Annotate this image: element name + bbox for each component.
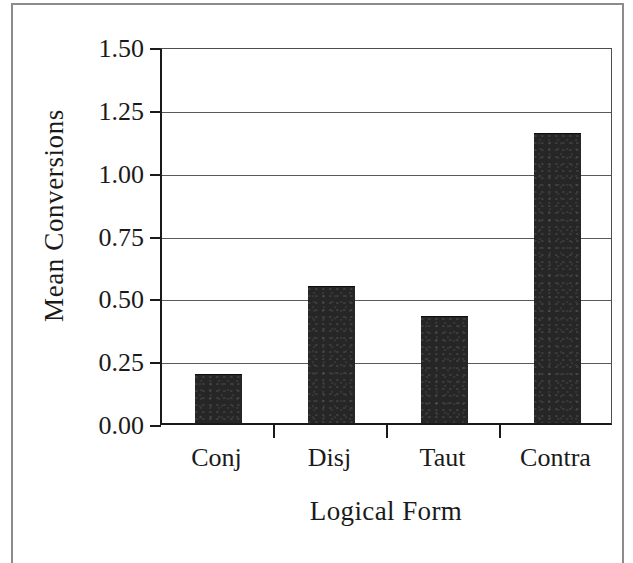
y-axis-tick-label: 0.75 [52,223,144,253]
x-axis-category-label: Conj [160,443,273,473]
plot-area [160,48,612,425]
y-axis-tick-label: 1.25 [52,97,144,127]
y-axis-tick-mark [150,425,161,427]
bar [308,286,355,423]
x-axis-tick-mark [386,425,388,438]
x-axis-title: Logical Form [160,496,612,527]
y-axis-tick-label: 0.25 [52,348,144,378]
y-axis-tick-label: 0.50 [52,285,144,315]
y-axis-tick-label: 0.00 [52,411,144,441]
x-axis-tick-mark [273,425,275,438]
x-axis-category-label: Contra [499,443,612,473]
x-axis-tick-mark [499,425,501,438]
x-axis-category-label: Taut [386,443,499,473]
y-axis-tick-label: 1.00 [52,160,144,190]
bar [534,133,581,423]
x-axis-category-label: Disj [273,443,386,473]
bar [421,316,468,423]
y-axis-tick-label: 1.50 [52,34,144,64]
bar [195,374,242,423]
gridline [162,112,611,113]
